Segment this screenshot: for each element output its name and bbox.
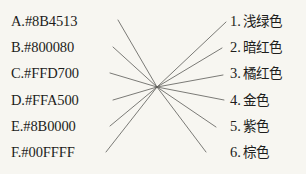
right-item-4-key: 4. <box>230 92 241 108</box>
right-item-6-label: 棕色 <box>243 144 269 160</box>
right-item-6[interactable]: 6.棕色 <box>230 145 269 160</box>
right-item-6-key: 6. <box>230 144 241 160</box>
right-item-4[interactable]: 4.金色 <box>230 93 269 108</box>
right-column: 1.浅绿色 2.暗红色 3.橘红色 4.金色 5.紫色 6.棕色 <box>150 0 306 174</box>
right-item-5-key: 5. <box>230 118 241 134</box>
left-column: A.#8B4513 B.#800080 C.#FFD700 D.#FFA500 … <box>0 0 150 174</box>
right-item-1-label: 浅绿色 <box>243 13 282 29</box>
left-item-a[interactable]: A.#8B4513 <box>11 14 77 29</box>
right-item-1[interactable]: 1.浅绿色 <box>230 14 282 29</box>
right-item-5-label: 紫色 <box>243 118 269 134</box>
right-item-2[interactable]: 2.暗红色 <box>230 40 282 55</box>
left-item-b[interactable]: B.#800080 <box>11 40 74 55</box>
left-item-f[interactable]: F.#00FFFF <box>11 145 75 160</box>
left-item-d[interactable]: D.#FFA500 <box>11 93 79 108</box>
right-item-5[interactable]: 5.紫色 <box>230 119 269 134</box>
matching-exercise: A.#8B4513 B.#800080 C.#FFD700 D.#FFA500 … <box>0 0 306 174</box>
right-item-4-label: 金色 <box>243 92 269 108</box>
right-item-1-key: 1. <box>230 13 241 29</box>
right-item-2-label: 暗红色 <box>243 39 282 55</box>
right-item-3-key: 3. <box>230 65 241 81</box>
left-item-c[interactable]: C.#FFD700 <box>11 66 79 81</box>
right-item-3-label: 橘红色 <box>243 65 282 81</box>
right-item-2-key: 2. <box>230 39 241 55</box>
right-item-3[interactable]: 3.橘红色 <box>230 66 282 81</box>
left-item-e[interactable]: E.#8B0000 <box>11 119 76 134</box>
